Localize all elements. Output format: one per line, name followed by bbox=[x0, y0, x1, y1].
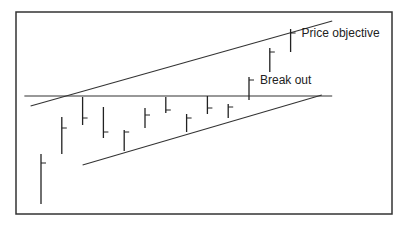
annotation-break-out: Break out bbox=[260, 73, 312, 87]
chart-frame bbox=[16, 12, 392, 214]
annotation-price-objective: Price objective bbox=[302, 26, 380, 40]
chart: Price objectiveBreak out bbox=[0, 0, 409, 225]
